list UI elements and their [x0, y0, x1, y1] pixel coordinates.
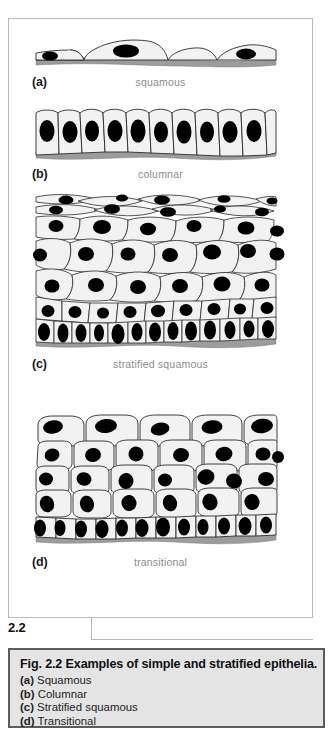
- figure-caption-box: Fig. 2.2 Examples of simple and stratifi…: [8, 648, 325, 728]
- squamous-diagram: [34, 29, 278, 71]
- panel-stratified-squamous: (c) stratified squamous: [9, 187, 312, 377]
- caption-text-d: Transitional: [38, 715, 96, 727]
- panel-name-squamous: squamous: [9, 76, 312, 88]
- panel-a-caption: (a) squamous: [9, 75, 312, 91]
- panel-name-columnar: columnar: [9, 168, 312, 180]
- tab-divider-line: [92, 639, 313, 640]
- transitional-diagram: [34, 413, 278, 549]
- caption-title: Fig. 2.2 Examples of simple and stratifi…: [20, 657, 313, 671]
- caption-item: (b) Columnar: [20, 688, 313, 702]
- caption-item: (c) Stratified squamous: [20, 701, 313, 715]
- panel-name-transitional: transitional: [9, 556, 312, 568]
- caption-label-c: (c): [20, 701, 34, 713]
- panel-c-caption: (c) stratified squamous: [9, 357, 312, 373]
- panel-name-stratified-squamous: stratified squamous: [9, 358, 312, 370]
- caption-label-b: (b): [20, 688, 35, 700]
- figure-number: 2.2: [8, 620, 25, 635]
- caption-text-b: Columnar: [38, 688, 87, 700]
- figure-panel: (a) squamous: [8, 18, 313, 618]
- columnar-diagram: [34, 105, 278, 165]
- caption-item: (d) Transitional: [20, 715, 313, 729]
- caption-item: (a) Squamous: [20, 674, 313, 688]
- panel-transitional: (d) transitional: [9, 409, 312, 559]
- caption-text-a: Squamous: [37, 674, 91, 686]
- caption-label-d: (d): [20, 715, 35, 727]
- figure-number-tab: 2.2: [0, 618, 92, 640]
- panel-squamous: (a) squamous: [9, 23, 312, 101]
- panel-columnar: (b) columnar: [9, 101, 312, 187]
- stratified-squamous-diagram: [34, 191, 278, 353]
- panel-b-caption: (b) columnar: [9, 167, 312, 183]
- caption-label-a: (a): [20, 674, 34, 686]
- panel-d-caption: (d) transitional: [9, 555, 312, 571]
- caption-text-c: Stratified squamous: [37, 701, 138, 713]
